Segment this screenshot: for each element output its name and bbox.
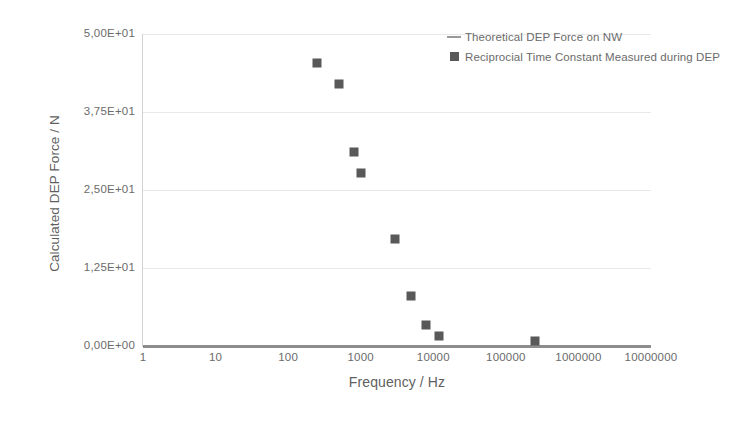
x-axis-tick-label: 1: [140, 351, 147, 363]
x-axis-tick-label: 100000: [486, 351, 526, 363]
square-key-icon: [443, 52, 465, 61]
x-axis-tick-label: 1000: [348, 351, 374, 363]
x-axis-tick-label: 10000: [417, 351, 450, 363]
chart-legend: Theoretical DEP Force on NWReciprocial T…: [443, 28, 743, 68]
legend-item: Theoretical DEP Force on NW: [443, 28, 743, 45]
line-key-icon: [443, 36, 465, 38]
x-axis-tick-label: 10: [209, 351, 222, 363]
x-axis-tick-label: 10000000: [625, 351, 678, 363]
legend-item: Reciprocial Time Constant Measured durin…: [443, 48, 743, 65]
chart-figure: Calculated DEP Force / N 0,00E+001,25E+0…: [0, 0, 755, 421]
x-axis-tick-label: 1000000: [555, 351, 601, 363]
line-swatch: [447, 36, 461, 38]
x-axis-tick-label: 100: [278, 351, 298, 363]
square-swatch: [450, 52, 459, 61]
legend-item-label: Reciprocial Time Constant Measured durin…: [465, 51, 720, 63]
legend-item-label: Theoretical DEP Force on NW: [465, 31, 622, 43]
x-axis-title: Frequency / Hz: [143, 374, 651, 390]
